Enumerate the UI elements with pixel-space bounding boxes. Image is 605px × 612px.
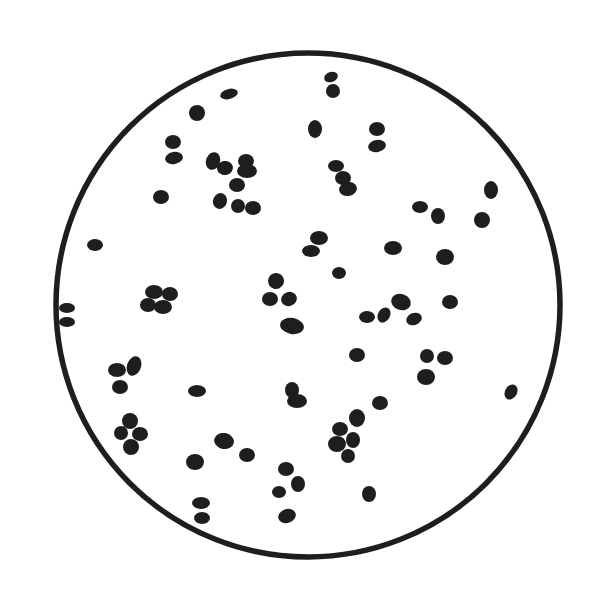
coccus-cell bbox=[145, 285, 163, 299]
coccus-cell bbox=[192, 497, 210, 509]
coccus-cell bbox=[437, 351, 453, 365]
coccus-cell bbox=[186, 454, 204, 470]
coccus-cell bbox=[436, 249, 454, 265]
coccus-cell bbox=[165, 135, 181, 149]
coccus-cell bbox=[132, 427, 148, 441]
coccus-cell bbox=[194, 512, 210, 524]
coccus-cell bbox=[122, 413, 138, 429]
coccus-cell bbox=[59, 303, 75, 313]
coccus-cell bbox=[302, 245, 320, 257]
coccus-cell bbox=[346, 432, 360, 448]
coccus-cell bbox=[442, 295, 458, 309]
coccus-cell bbox=[349, 409, 365, 427]
coccus-cell bbox=[328, 436, 346, 452]
microscope-field-svg bbox=[0, 0, 605, 612]
coccus-cell bbox=[239, 448, 255, 462]
coccus-cell bbox=[362, 486, 376, 502]
coccus-cell bbox=[189, 105, 205, 121]
coccus-cell bbox=[287, 394, 307, 408]
coccus-cell bbox=[59, 317, 75, 327]
coccus-cell bbox=[229, 178, 245, 192]
coccus-cell bbox=[412, 201, 428, 213]
coccus-cell bbox=[332, 267, 346, 279]
coccus-cell bbox=[291, 476, 305, 492]
coccus-cell bbox=[188, 385, 206, 397]
coccus-cell bbox=[341, 449, 355, 463]
background bbox=[0, 0, 605, 612]
coccus-cell bbox=[308, 120, 322, 138]
coccus-cell bbox=[153, 190, 169, 204]
coccus-cell bbox=[245, 201, 261, 215]
coccus-cell bbox=[231, 199, 245, 213]
coccus-cell bbox=[272, 486, 286, 498]
coccus-cell bbox=[372, 396, 388, 410]
microscope-figure bbox=[0, 0, 605, 612]
coccus-cell bbox=[431, 208, 445, 224]
coccus-cell bbox=[369, 122, 385, 136]
coccus-cell bbox=[420, 349, 434, 363]
coccus-cell bbox=[484, 181, 498, 199]
coccus-cell bbox=[114, 426, 128, 440]
coccus-cell bbox=[359, 311, 375, 323]
coccus-cell bbox=[162, 287, 178, 301]
coccus-cell bbox=[108, 363, 126, 377]
coccus-cell bbox=[332, 422, 348, 436]
coccus-cell bbox=[310, 231, 328, 245]
coccus-cell bbox=[112, 380, 128, 394]
coccus-cell bbox=[278, 462, 294, 476]
coccus-cell bbox=[262, 292, 278, 306]
coccus-cell bbox=[123, 439, 139, 455]
coccus-cell bbox=[237, 164, 257, 178]
coccus-cell bbox=[154, 300, 172, 314]
coccus-cell bbox=[474, 212, 490, 228]
coccus-cell bbox=[326, 84, 340, 98]
coccus-cell bbox=[87, 239, 103, 251]
coccus-cell bbox=[349, 348, 365, 362]
coccus-cell bbox=[140, 298, 156, 312]
coccus-cell bbox=[384, 241, 402, 255]
coccus-cell bbox=[417, 369, 435, 385]
coccus-cell bbox=[328, 160, 344, 172]
